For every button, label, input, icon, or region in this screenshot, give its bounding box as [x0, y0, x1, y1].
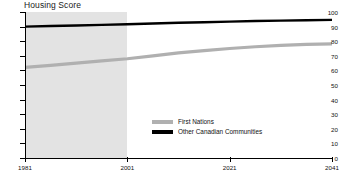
y-axis: [25, 12, 26, 159]
series-line-other-canadian-communities: [25, 20, 332, 27]
series-line-first-nations: [25, 44, 332, 68]
series-container: [25, 12, 332, 158]
x-tick-label: 2001: [120, 164, 134, 171]
legend-item: First Nations: [152, 118, 262, 126]
y-tick-label: 0: [320, 155, 338, 162]
y-tick-label: 60: [320, 67, 338, 74]
y-tick-mark: [20, 56, 25, 57]
y-tick-mark: [20, 12, 25, 13]
x-tick-mark: [230, 157, 231, 162]
x-tick-label: 2041: [325, 164, 339, 171]
chart-legend: First NationsOther Canadian Communities: [152, 118, 262, 136]
y-tick-label: 30: [320, 111, 338, 118]
x-tick-label: 2021: [223, 164, 237, 171]
legend-swatch: [152, 130, 173, 134]
legend-item: Other Canadian Communities: [152, 128, 262, 136]
y-tick-mark: [20, 27, 25, 28]
y-tick-label: 100: [320, 9, 338, 16]
y-tick-label: 40: [320, 96, 338, 103]
x-tick-label: 1981: [18, 164, 32, 171]
legend-swatch: [152, 120, 173, 124]
y-tick-label: 80: [320, 38, 338, 45]
y-tick-label: 10: [320, 140, 338, 147]
chart-title: Housing Score: [24, 0, 81, 10]
y-tick-mark: [20, 100, 25, 101]
y-tick-label: 70: [320, 52, 338, 59]
y-tick-mark: [20, 85, 25, 86]
y-tick-mark: [20, 143, 25, 144]
y-tick-mark: [20, 70, 25, 71]
y-tick-label: 90: [320, 23, 338, 30]
y-tick-mark: [20, 129, 25, 130]
y-tick-mark: [20, 114, 25, 115]
y-tick-label: 20: [320, 125, 338, 132]
x-tick-mark: [25, 157, 26, 162]
y-tick-mark: [20, 41, 25, 42]
legend-label: First Nations: [178, 118, 214, 126]
x-axis: [25, 158, 332, 159]
x-tick-mark: [127, 157, 128, 162]
y-tick-label: 50: [320, 82, 338, 89]
legend-label: Other Canadian Communities: [178, 128, 262, 136]
x-tick-mark: [332, 157, 333, 162]
